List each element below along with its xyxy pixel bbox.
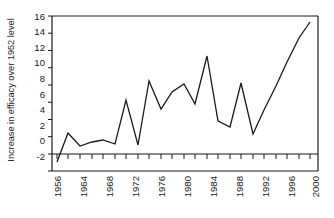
x-tick-label: 1992: [260, 176, 271, 197]
chart-container: Increase in efficacy over 1952 level 16 …: [0, 0, 334, 218]
line-chart: Increase in efficacy over 1952 level 16 …: [0, 0, 334, 218]
x-tick-label: 2000: [310, 176, 321, 197]
x-tick-label: 1980: [182, 176, 193, 197]
y-axis-label: Increase in efficacy over 1952 level: [6, 18, 16, 161]
y-tick-label: 14: [34, 26, 45, 37]
y-tick-label: 0: [40, 135, 45, 146]
x-tick-label: 1988: [234, 176, 245, 197]
y-tick-label: 16: [34, 11, 45, 22]
x-tick-label: 1968: [104, 176, 115, 197]
y-tick-label: -2: [36, 151, 45, 162]
y-tick-label: 10: [34, 57, 45, 68]
y-tick-label: 12: [34, 42, 45, 53]
y-tick-label: 6: [40, 89, 45, 100]
y-tick-label: 2: [40, 120, 45, 131]
y-tick-label: 8: [40, 73, 45, 84]
x-tick-label: 1964: [78, 175, 89, 197]
x-tick-label: 1984: [208, 175, 219, 197]
x-tick-label: 1996: [286, 176, 297, 197]
x-tick-label: 1976: [156, 176, 167, 197]
x-tick-label: 1972: [130, 176, 141, 197]
y-tick-label: 4: [40, 104, 46, 115]
x-tick-label: 1956: [52, 176, 63, 197]
